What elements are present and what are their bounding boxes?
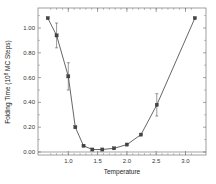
x-tick-label: 1.5 [93,158,102,164]
data-point-marker [193,16,196,19]
data-point-marker [67,75,70,78]
y-axis-label: Folding Time (108 MC Steps) [4,40,12,123]
data-point-marker [46,16,49,19]
x-axis-ticks: 1.01.52.02.53.0 [64,8,190,164]
y-tick-label: 0.00 [23,149,35,155]
data-point-marker [91,148,94,151]
x-axis-label: Temperature [104,168,141,176]
data-line [48,18,195,149]
data-point-marker [139,133,142,136]
data-point-marker [101,148,104,151]
folding-time-chart: 0.000.200.400.600.801.00 1.01.52.02.53.0… [0,0,216,184]
data-point-marker [125,143,128,146]
y-axis-ticks: 0.000.200.400.600.801.00 [23,25,206,155]
x-tick-label: 1.0 [64,158,73,164]
y-tick-label: 0.20 [23,124,35,130]
x-tick-label: 2.0 [123,158,132,164]
plot-frame [38,8,206,155]
y-tick-label: 0.60 [23,75,35,81]
y-tick-label: 1.00 [23,25,35,31]
y-tick-label: 0.40 [23,99,35,105]
data-series [46,16,196,151]
x-tick-label: 2.5 [152,158,161,164]
data-point-marker [74,126,77,129]
x-tick-label: 3.0 [181,158,190,164]
data-point-marker [155,103,158,106]
data-point-marker [55,34,58,37]
y-tick-label: 0.80 [23,50,35,56]
data-point-marker [82,144,85,147]
data-point-marker [112,147,115,150]
minor-ticks [38,8,206,155]
